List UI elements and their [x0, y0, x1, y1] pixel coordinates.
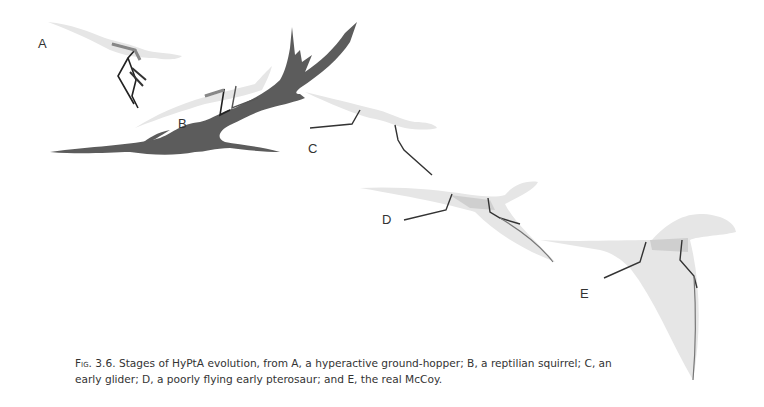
caption-text: Stages of HyPtA evolution, from A, a hyp… [75, 357, 612, 385]
panel-label-a: A [38, 36, 47, 51]
panel-label-c: C [308, 141, 317, 156]
panel-label-d: D [382, 212, 391, 227]
panel-label-b: B [178, 116, 187, 131]
stage-b-animal [135, 66, 272, 128]
stage-c-animal [305, 92, 437, 175]
panel-label-e: E [580, 286, 589, 301]
figure-number: Fig. 3.6. [75, 357, 116, 369]
figure-illustration [0, 0, 764, 407]
stage-a-animal [48, 22, 182, 108]
evolution-figure: A B C D E [0, 0, 764, 407]
figure-caption: Fig. 3.6. Stages of HyPtA evolution, fro… [75, 355, 635, 387]
